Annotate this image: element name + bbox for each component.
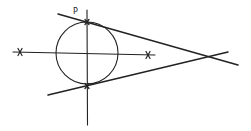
point-p-label: P — [73, 7, 78, 16]
geometry-diagram: P — [0, 0, 251, 131]
horizontal-line — [13, 52, 155, 55]
vertical-line — [87, 10, 88, 125]
lower-tangent-line — [48, 52, 228, 95]
upper-tangent-line — [58, 14, 238, 65]
